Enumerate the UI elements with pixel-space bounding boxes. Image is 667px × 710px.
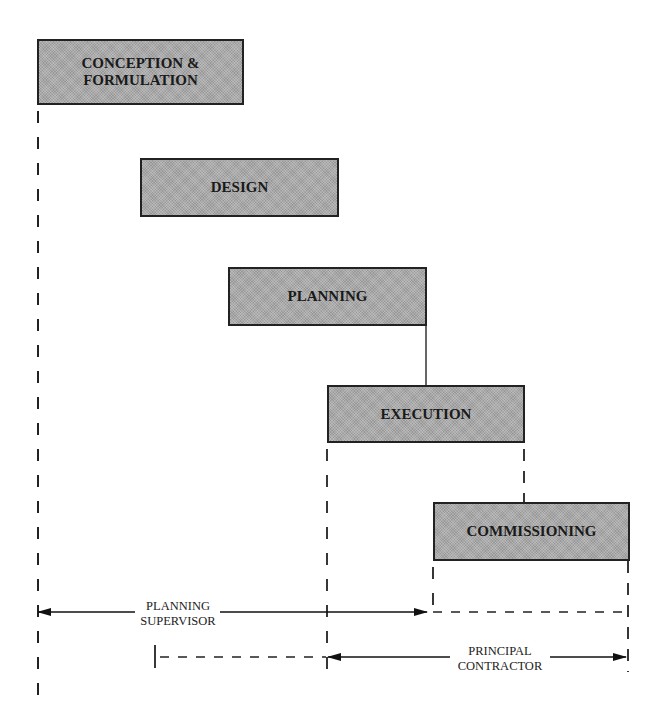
connector-lines bbox=[0, 0, 667, 710]
planning-supervisor-label: PLANNING SUPERVISOR bbox=[138, 599, 218, 629]
principal-contractor-label: PRINCIPAL CONTRACTOR bbox=[451, 644, 549, 674]
project-stages-diagram: CONCEPTION & FORMULATION DESIGN PLANNING… bbox=[0, 0, 667, 710]
